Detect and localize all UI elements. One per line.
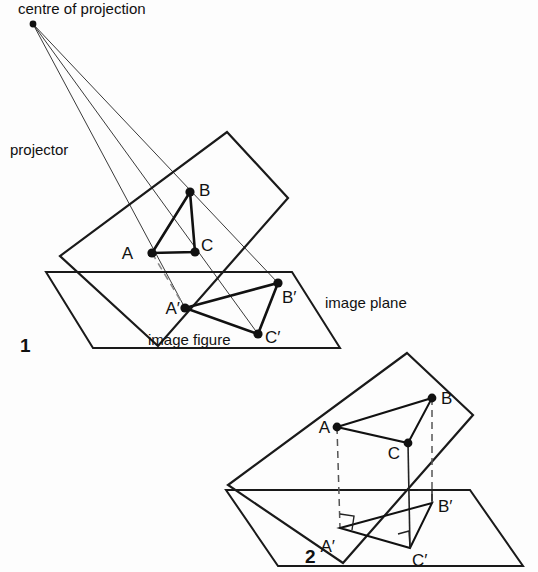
label-image-figure: image figure bbox=[148, 331, 231, 348]
label-a: A bbox=[122, 244, 134, 263]
vertex-dot-a bbox=[147, 248, 156, 257]
panel-number-1: 1 bbox=[20, 335, 31, 356]
label-c-prime: C′ bbox=[265, 328, 280, 347]
hidden-edges bbox=[152, 192, 190, 308]
vertex-dot-c-2 bbox=[404, 439, 413, 448]
vertex-dot-b-prime bbox=[273, 278, 282, 287]
vertex-dot-c bbox=[190, 247, 199, 256]
label-c-2: C bbox=[388, 444, 400, 463]
label-c-prime-2: C′ bbox=[412, 551, 427, 570]
right-angle-mark-b-prime bbox=[418, 490, 432, 503]
right-angle-marks bbox=[340, 490, 432, 548]
label-a-prime-2: A′ bbox=[320, 537, 335, 556]
vertex-dot-a-prime bbox=[180, 303, 189, 312]
vertex-dot-a-2 bbox=[333, 423, 342, 432]
projector-ray-c bbox=[33, 24, 258, 334]
vertex-dot-b bbox=[185, 187, 194, 196]
label-centre-of-projection: centre of projection bbox=[18, 0, 146, 17]
label-b-prime-2: B′ bbox=[438, 497, 453, 516]
panel-number-2: 2 bbox=[305, 546, 316, 567]
object-triangle-abc-2 bbox=[337, 398, 432, 443]
projector-ray-b bbox=[33, 24, 278, 283]
label-c: C bbox=[201, 236, 213, 255]
object-triangle-abc bbox=[152, 192, 195, 253]
label-projector: projector bbox=[10, 141, 68, 158]
diagram-canvas: A B C A′ B′ C′ centre of projection proj… bbox=[0, 0, 538, 572]
projector-rays bbox=[33, 24, 278, 334]
label-b-2: B bbox=[441, 389, 452, 408]
label-a-prime: A′ bbox=[165, 299, 180, 318]
panel-1-group: A B C A′ B′ C′ centre of projection proj… bbox=[10, 0, 407, 356]
centre-of-projection-dot bbox=[30, 21, 37, 28]
vertex-dot-b-2 bbox=[428, 394, 437, 403]
panel-2-group: A B C A′ B′ C′ 2 bbox=[226, 353, 523, 570]
image-triangle-abc-prime bbox=[185, 283, 278, 334]
label-a-2: A bbox=[319, 418, 331, 437]
vertex-dot-c-prime bbox=[253, 329, 262, 338]
projection-diagram-svg: A B C A′ B′ C′ centre of projection proj… bbox=[0, 0, 538, 572]
image-triangle-abc-prime-2 bbox=[340, 503, 432, 548]
label-image-plane: image plane bbox=[325, 294, 407, 311]
label-b: B bbox=[199, 181, 210, 200]
projector-ray-a bbox=[33, 24, 185, 308]
drop-a-aprime bbox=[337, 427, 340, 528]
label-b-prime: B′ bbox=[282, 288, 297, 307]
